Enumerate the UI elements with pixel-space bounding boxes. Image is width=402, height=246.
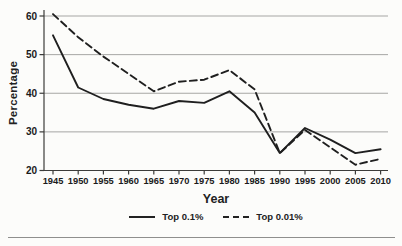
y-tick-label: 20 [26,165,38,176]
x-tick-label: 2005 [345,176,366,186]
plot-area: 2030405060194519501955196019651970197519… [0,0,402,190]
x-tick-label: 1960 [118,176,139,186]
x-tick-label: 1945 [43,176,64,186]
horizontal-divider [8,237,395,238]
solid-line-swatch [129,216,155,218]
legend-item-top-0-01: Top 0.01% [223,211,302,222]
x-tick-label: 1990 [269,176,290,186]
line-chart-figure: 2030405060194519501955196019651970197519… [0,0,402,246]
x-tick-label: 1975 [194,176,215,186]
legend-label: Top 0.01% [256,211,302,222]
legend-item-top-0-1: Top 0.1% [129,211,203,222]
legend-label: Top 0.1% [162,211,203,222]
x-tick-label: 2000 [320,176,341,186]
x-tick-label: 1995 [295,176,316,186]
y-tick-label: 60 [26,11,38,22]
x-tick-label: 1985 [244,176,265,186]
x-axis-title: Year [44,192,388,206]
y-tick-label: 40 [26,88,38,99]
series-line-0-solid [53,35,381,153]
x-tick-label: 1970 [169,176,190,186]
y-axis-title-wrap: Percentage [0,16,26,171]
y-axis-title: Percentage [7,61,19,125]
dashed-line-swatch [223,216,249,218]
y-tick-label: 30 [26,126,38,137]
legend: Top 0.1% Top 0.01% [44,211,388,222]
x-tick-label: 2010 [370,176,391,186]
x-tick-label: 1955 [93,176,114,186]
series-line-1-dashed [53,14,381,165]
x-tick-label: 1965 [143,176,164,186]
y-tick-label: 50 [26,49,38,60]
x-tick-label: 1980 [219,176,240,186]
x-tick-label: 1950 [68,176,89,186]
